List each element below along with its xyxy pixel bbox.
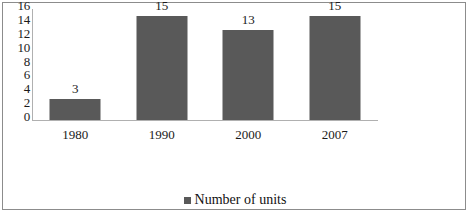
y-axis-tick: 12 bbox=[3, 27, 30, 40]
x-axis-tick: 2007 bbox=[322, 127, 348, 142]
y-axis-tick: 4 bbox=[3, 82, 30, 95]
bar bbox=[309, 16, 360, 120]
legend-label: Number of units bbox=[195, 193, 287, 207]
chart-frame: 1614121086420 3151315 1980199020002007 N… bbox=[2, 2, 466, 210]
y-axis-tick: 14 bbox=[3, 13, 30, 26]
legend-item[interactable]: Number of units bbox=[184, 193, 287, 207]
bar-group: 15 bbox=[292, 9, 379, 120]
y-axis-tick-labels: 1614121086420 bbox=[3, 5, 30, 120]
y-axis-tick: 8 bbox=[3, 55, 30, 68]
x-axis-tick: 2000 bbox=[235, 127, 261, 142]
bar bbox=[223, 30, 274, 120]
bar-value-label: 15 bbox=[155, 0, 168, 12]
y-axis-tick: 2 bbox=[3, 96, 30, 109]
bar-group: 13 bbox=[205, 9, 292, 120]
y-axis-tick: 16 bbox=[3, 0, 30, 12]
bar bbox=[50, 99, 101, 120]
y-axis-tick: 0 bbox=[3, 110, 30, 123]
bar bbox=[136, 16, 187, 120]
bars-layer: 3151315 bbox=[32, 9, 378, 120]
bar-value-label: 15 bbox=[328, 0, 341, 12]
bar-value-label: 3 bbox=[72, 82, 79, 95]
y-axis-tick: 10 bbox=[3, 41, 30, 54]
chart-legend: Number of units bbox=[3, 193, 467, 207]
x-axis-tick-labels: 1980199020002007 bbox=[32, 127, 378, 147]
x-axis-line bbox=[32, 120, 378, 121]
bar-group: 3 bbox=[32, 9, 119, 120]
y-axis-tick: 6 bbox=[3, 68, 30, 81]
bar-group: 15 bbox=[119, 9, 206, 120]
legend-square-icon bbox=[184, 197, 191, 204]
plot-area: 1614121086420 3151315 1980199020002007 bbox=[3, 3, 467, 149]
bar-value-label: 13 bbox=[242, 13, 255, 26]
x-axis-tick: 1980 bbox=[62, 127, 88, 142]
x-axis-tick: 1990 bbox=[149, 127, 175, 142]
